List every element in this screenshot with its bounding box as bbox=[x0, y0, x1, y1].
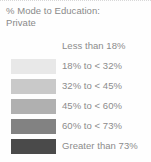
legend-item: 18% to < 32% bbox=[0, 57, 151, 77]
legend-item: 60% to < 73% bbox=[0, 117, 151, 137]
legend-swatch-0 bbox=[11, 39, 56, 54]
legend-item: 32% to < 45% bbox=[0, 77, 151, 97]
map-legend: % Mode to Education: Private Less than 1… bbox=[0, 0, 151, 162]
top-divider bbox=[0, 0, 151, 1]
legend-rows: Less than 18% 18% to < 32% 32% to < 45% … bbox=[0, 37, 151, 157]
legend-label-3: 45% to < 60% bbox=[62, 100, 122, 112]
legend-label-2: 32% to < 45% bbox=[62, 80, 122, 92]
legend-label-0: Less than 18% bbox=[62, 40, 126, 52]
legend-swatch-4 bbox=[11, 119, 56, 134]
legend-label-1: 18% to < 32% bbox=[62, 60, 122, 72]
legend-swatch-3 bbox=[11, 99, 56, 114]
legend-swatch-5 bbox=[11, 139, 56, 154]
legend-item: 45% to < 60% bbox=[0, 97, 151, 117]
legend-swatch-2 bbox=[11, 79, 56, 94]
legend-title-line1: % Mode to Education: bbox=[6, 5, 100, 16]
legend-label-4: 60% to < 73% bbox=[62, 120, 122, 132]
legend-title: % Mode to Education: Private bbox=[6, 5, 148, 29]
legend-item: Greater than 73% bbox=[0, 137, 151, 157]
legend-swatch-1 bbox=[11, 59, 56, 74]
legend-label-5: Greater than 73% bbox=[62, 140, 138, 152]
legend-title-line2: Private bbox=[6, 17, 148, 29]
legend-item: Less than 18% bbox=[0, 37, 151, 57]
